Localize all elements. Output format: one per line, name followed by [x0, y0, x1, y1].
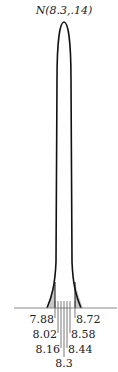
tick-label-7.88: 7.88 — [30, 313, 55, 326]
tick-label-8.02: 8.02 — [33, 328, 58, 341]
tick-label-8.72: 8.72 — [76, 313, 101, 326]
tick-label-8.16: 8.16 — [36, 343, 61, 356]
tick-label-8.58: 8.58 — [71, 328, 96, 341]
tick-label-8.3: 8.3 — [55, 357, 73, 370]
normal-distribution-chart: N(8.3,.14) 7.88 8.02 8.16 8.3 8.44 8.58 … — [0, 0, 118, 372]
tick-label-8.44: 8.44 — [68, 343, 93, 356]
density-curve — [47, 22, 81, 308]
chart-title: N(8.3,.14) — [35, 4, 93, 17]
